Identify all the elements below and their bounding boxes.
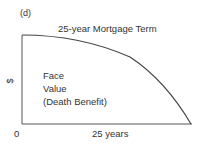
annotation-line-1: Face: [43, 69, 64, 82]
x-tick-zero: 0: [14, 128, 19, 139]
annotation-line-3: (Death Benefit): [43, 95, 107, 108]
x-axis-label: 25 years: [92, 128, 128, 139]
annotation-line-2: Value: [43, 82, 67, 95]
